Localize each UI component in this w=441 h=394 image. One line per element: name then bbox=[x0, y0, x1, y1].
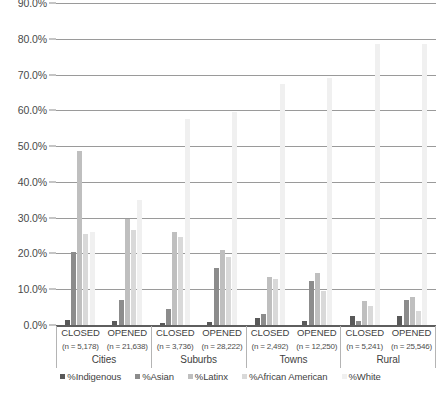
x-axis-status-label: OPENED bbox=[388, 326, 435, 340]
bar bbox=[375, 44, 380, 325]
bar bbox=[65, 320, 70, 325]
bar bbox=[172, 232, 177, 325]
bar bbox=[350, 316, 355, 325]
bar bbox=[404, 300, 409, 325]
bar bbox=[327, 78, 332, 325]
y-axis-tick-label: 80.0% bbox=[18, 33, 47, 45]
y-axis-tick-label: 70.0% bbox=[18, 69, 47, 81]
locale-cell: CLOSEDOPENED(n = 3,736)(n = 28,222)Subur… bbox=[151, 326, 247, 368]
bars-layer bbox=[56, 0, 436, 325]
x-axis-group-label: Cities bbox=[57, 353, 151, 367]
bar bbox=[185, 119, 190, 325]
locale-cell: CLOSEDOPENED(n = 5,241)(n = 25,546)Rural bbox=[340, 326, 436, 368]
bar bbox=[273, 279, 278, 326]
locale-cell: CLOSEDOPENED(n = 5,178)(n = 21,638)Citie… bbox=[56, 326, 152, 368]
bar bbox=[178, 237, 183, 325]
bar bbox=[166, 309, 171, 325]
bar bbox=[368, 306, 373, 325]
x-axis-labels: CLOSEDOPENED(n = 5,178)(n = 21,638)Citie… bbox=[56, 326, 436, 368]
legend-label: %White bbox=[349, 371, 381, 382]
bar bbox=[309, 281, 314, 325]
y-axis-tick-label: 30.0% bbox=[18, 212, 47, 224]
plot-area bbox=[56, 0, 436, 332]
bar bbox=[232, 112, 237, 325]
y-axis-tick-mark bbox=[49, 289, 56, 290]
x-axis-status-label: CLOSED bbox=[57, 326, 104, 340]
bar bbox=[267, 277, 272, 325]
x-axis-status-label: OPENED bbox=[293, 326, 340, 340]
x-axis-status-label: CLOSED bbox=[152, 326, 199, 340]
bar bbox=[214, 268, 219, 325]
legend-item[interactable]: %White bbox=[342, 371, 381, 382]
y-axis-tick-mark bbox=[49, 325, 56, 326]
bar bbox=[137, 200, 142, 325]
bar bbox=[356, 321, 361, 325]
bar-group bbox=[199, 0, 247, 325]
bar-group bbox=[104, 0, 152, 325]
bar bbox=[90, 232, 95, 325]
bar-group bbox=[246, 0, 294, 325]
chart-legend: %Indigenous%Asian%Latinx%African America… bbox=[0, 368, 441, 384]
y-axis-tick-mark bbox=[49, 181, 56, 182]
legend-swatch-icon bbox=[242, 374, 247, 379]
bar bbox=[280, 84, 285, 326]
legend-label: %Indigenous bbox=[67, 371, 121, 382]
bar bbox=[321, 291, 326, 325]
x-axis-sample-size-label: (n = 28,222) bbox=[199, 340, 246, 353]
x-axis-sample-size-label: (n = 5,178) bbox=[57, 340, 104, 353]
bar bbox=[125, 219, 130, 325]
y-axis-tick-mark bbox=[49, 253, 56, 254]
y-axis-tick-label: 10.0% bbox=[18, 283, 47, 295]
x-axis-group-label: Towns bbox=[247, 353, 341, 367]
bar bbox=[83, 234, 88, 325]
bar bbox=[302, 321, 307, 325]
y-axis-tick-mark bbox=[49, 3, 56, 4]
x-axis-sample-size-label: (n = 21,638) bbox=[104, 340, 151, 353]
bar bbox=[77, 151, 82, 325]
y-axis-tick-label: 0.0% bbox=[23, 319, 47, 331]
bar-group bbox=[294, 0, 342, 325]
bar bbox=[131, 230, 136, 325]
bar bbox=[410, 297, 415, 325]
bar-group bbox=[389, 0, 437, 325]
y-axis-tick-label: 60.0% bbox=[18, 104, 47, 116]
sample-size-row: (n = 5,178)(n = 21,638) bbox=[57, 340, 151, 353]
bar bbox=[397, 316, 402, 325]
bar bbox=[71, 252, 76, 325]
sample-size-row: (n = 5,241)(n = 25,546) bbox=[341, 340, 435, 353]
plot-wrapper: 0.0%10.0%20.0%30.0%40.0%50.0%60.0%70.0%8… bbox=[0, 0, 441, 332]
sample-size-row: (n = 3,736)(n = 28,222) bbox=[152, 340, 246, 353]
y-axis-tick-mark bbox=[49, 217, 56, 218]
y-axis-tick-label: 50.0% bbox=[18, 140, 47, 152]
legend-item[interactable]: %African American bbox=[242, 371, 328, 382]
locale-cell: CLOSEDOPENED(n = 2,492)(n = 12,250)Towns bbox=[246, 326, 342, 368]
y-axis-tick-mark bbox=[49, 38, 56, 39]
bar bbox=[112, 321, 117, 325]
status-row: CLOSEDOPENED bbox=[57, 326, 151, 340]
legend-item[interactable]: %Asian bbox=[135, 371, 174, 382]
legend-swatch-icon bbox=[188, 374, 193, 379]
x-axis-sample-size-label: (n = 25,546) bbox=[388, 340, 435, 353]
x-axis-status-label: CLOSED bbox=[247, 326, 294, 340]
legend-item[interactable]: %Latinx bbox=[188, 371, 228, 382]
status-row: CLOSEDOPENED bbox=[247, 326, 341, 340]
status-row: CLOSEDOPENED bbox=[341, 326, 435, 340]
legend-swatch-icon bbox=[60, 374, 65, 379]
legend-swatch-icon bbox=[135, 374, 140, 379]
y-axis-tick-mark bbox=[49, 74, 56, 75]
bar bbox=[207, 322, 212, 325]
y-axis-tick-label: 20.0% bbox=[18, 247, 47, 259]
x-axis-group-label: Rural bbox=[341, 353, 435, 367]
y-axis-tick-mark bbox=[49, 146, 56, 147]
y-axis-tick-label: 40.0% bbox=[18, 176, 47, 188]
legend-item[interactable]: %Indigenous bbox=[60, 371, 121, 382]
x-axis-sample-size-label: (n = 5,241) bbox=[341, 340, 388, 353]
y-axis: 0.0%10.0%20.0%30.0%40.0%50.0%60.0%70.0%8… bbox=[0, 0, 56, 332]
bar-group bbox=[341, 0, 389, 325]
bar-group bbox=[151, 0, 199, 325]
bar bbox=[422, 44, 427, 325]
x-axis-sample-size-label: (n = 12,250) bbox=[293, 340, 340, 353]
sample-size-row: (n = 2,492)(n = 12,250) bbox=[247, 340, 341, 353]
bar bbox=[261, 314, 266, 325]
x-axis-sample-size-label: (n = 3,736) bbox=[152, 340, 199, 353]
